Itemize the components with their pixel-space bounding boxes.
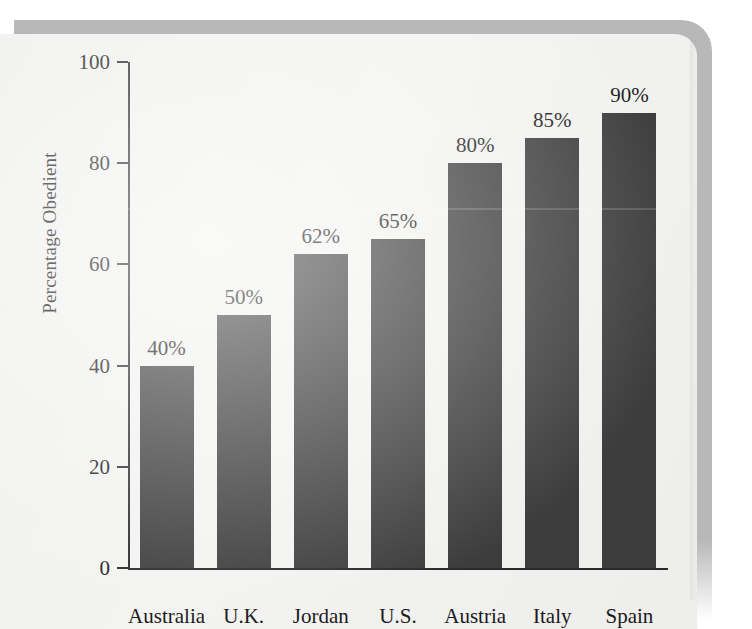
- y-axis-tick-mark: [117, 567, 128, 569]
- y-axis-tick-label: 0: [50, 558, 110, 579]
- x-axis-category-label: Australia: [128, 606, 205, 627]
- bar-chart: 020406080100 Percentage Obedient 40%Aust…: [0, 34, 697, 629]
- x-axis-category-label: U.S.: [379, 606, 416, 627]
- bar-value-label: 62%: [302, 226, 341, 247]
- bar[interactable]: [217, 315, 271, 568]
- x-axis-category-label: Jordan: [293, 606, 349, 627]
- x-axis-category-label: Austria: [444, 606, 506, 627]
- y-axis-tick-mark: [117, 263, 128, 265]
- bar[interactable]: [140, 366, 194, 568]
- bar-group: 62%Jordan: [282, 62, 359, 568]
- y-axis-title: Percentage Obedient: [39, 123, 61, 343]
- bar-series: 40%Australia50%U.K.62%Jordan65%U.S.80%Au…: [128, 62, 668, 568]
- bar[interactable]: [602, 113, 656, 568]
- bar-value-label: 90%: [610, 85, 649, 106]
- scanned-chart-page: 020406080100 Percentage Obedient 40%Aust…: [0, 0, 752, 629]
- chart-card: 020406080100 Percentage Obedient 40%Aust…: [0, 34, 697, 629]
- bar-value-label: 40%: [147, 338, 186, 359]
- x-axis-category-label: Italy: [533, 606, 571, 627]
- bar[interactable]: [525, 138, 579, 568]
- bar-value-label: 50%: [224, 287, 263, 308]
- bar-value-label: 85%: [533, 110, 572, 131]
- bar-value-label: 65%: [379, 211, 418, 232]
- bar-group: 85%Italy: [514, 62, 591, 568]
- bar-group: 65%U.S.: [359, 62, 436, 568]
- y-axis-tick-mark: [117, 365, 128, 367]
- bar[interactable]: [371, 239, 425, 568]
- bar-value-label: 80%: [456, 135, 495, 156]
- y-axis-tick-label: 40: [50, 355, 110, 376]
- x-axis-category-label: U.K.: [223, 606, 264, 627]
- bar-group: 90%Spain: [591, 62, 668, 568]
- y-axis-tick-label: 20: [50, 456, 110, 477]
- bar-group: 80%Austria: [437, 62, 514, 568]
- y-axis-tick-mark: [117, 162, 128, 164]
- bar-group: 40%Australia: [128, 62, 205, 568]
- bar[interactable]: [448, 163, 502, 568]
- y-axis-tick-mark: [117, 61, 128, 63]
- y-axis-tick-label: 100: [50, 52, 110, 73]
- x-axis-line: [128, 568, 668, 570]
- bar[interactable]: [294, 254, 348, 568]
- y-axis-tick-mark: [117, 466, 128, 468]
- x-axis-category-label: Spain: [605, 606, 653, 627]
- bar-group: 50%U.K.: [205, 62, 282, 568]
- card-right-edge: [690, 40, 697, 600]
